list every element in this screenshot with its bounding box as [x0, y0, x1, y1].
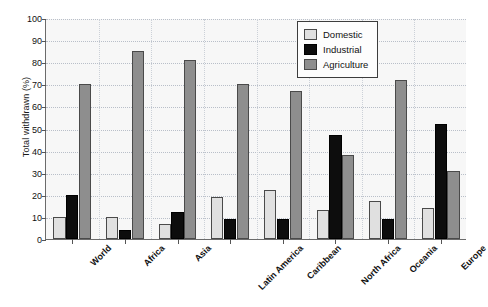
gridline-vertical — [151, 19, 152, 239]
y-axis-tick-label: 20 — [18, 191, 42, 200]
gridline-vertical — [414, 19, 415, 239]
gridline-vertical — [204, 19, 205, 239]
y-axis-tick-label: 50 — [18, 125, 42, 134]
bar-agriculture-europe — [447, 171, 459, 240]
bar-agriculture-world — [79, 84, 91, 239]
y-axis-tick-label: 80 — [18, 59, 42, 68]
legend-item-domestic: Domestic — [304, 27, 368, 42]
legend-item-industrial: Industrial — [304, 42, 368, 57]
bar-industrial-world — [66, 195, 78, 239]
x-axis-tick-label: Asia — [192, 243, 213, 264]
bar-domestic-africa — [106, 217, 118, 239]
bar-agriculture-latin-america — [237, 84, 249, 239]
y-axis-tick-mark — [42, 196, 46, 197]
y-axis-tick-label: 10 — [18, 213, 42, 222]
y-axis-tick-label: 90 — [18, 37, 42, 46]
bar-industrial-caribbean — [277, 219, 289, 239]
chart-legend: DomesticIndustrialAgriculture — [297, 21, 378, 78]
bar-domestic-oceania — [369, 201, 381, 239]
x-axis-tick-label: Latin America — [257, 243, 306, 292]
y-axis-tick-label: 60 — [18, 103, 42, 112]
legend-item-label: Industrial — [323, 45, 362, 55]
y-axis-tick-mark — [42, 85, 46, 86]
x-axis-tick-label: Caribbean — [305, 243, 343, 281]
legend-swatch-industrial-icon — [304, 44, 317, 55]
y-axis-tick-label: 70 — [18, 81, 42, 90]
bar-agriculture-caribbean — [290, 91, 302, 239]
bar-domestic-north-africa — [317, 210, 329, 239]
bar-industrial-latin-america — [224, 219, 236, 239]
y-axis-tick-mark — [42, 41, 46, 42]
y-axis-tick-label: 30 — [18, 169, 42, 178]
y-axis-tick-labels: 0102030405060708090100 — [18, 14, 42, 240]
y-axis-tick-mark — [42, 240, 46, 241]
legend-item-label: Agriculture — [323, 60, 368, 70]
y-axis-tick-mark — [42, 174, 46, 175]
bar-industrial-north-africa — [329, 135, 341, 239]
plot-area — [45, 19, 466, 240]
y-axis-tick-mark — [42, 218, 46, 219]
bar-domestic-caribbean — [264, 190, 276, 239]
x-axis-tick-label: Africa — [141, 243, 166, 268]
bar-domestic-europe — [422, 208, 434, 239]
bar-industrial-oceania — [382, 219, 394, 239]
bar-agriculture-africa — [132, 51, 144, 239]
gridline-vertical — [99, 19, 100, 239]
y-axis-tick-mark — [42, 19, 46, 20]
bar-industrial-africa — [119, 230, 131, 239]
bar-domestic-latin-america — [211, 197, 223, 239]
gridline-vertical — [257, 19, 258, 239]
y-axis-tick-mark — [42, 152, 46, 153]
y-axis-tick-mark — [42, 130, 46, 131]
bar-domestic-asia — [159, 224, 171, 239]
bar-agriculture-oceania — [395, 80, 407, 239]
y-axis-tick-label: 0 — [18, 236, 42, 245]
x-axis-tick-label: Oceania — [407, 243, 439, 275]
legend-item-agriculture: Agriculture — [304, 57, 368, 72]
x-axis-tick-label: North Africa — [360, 243, 404, 287]
bar-industrial-asia — [171, 212, 183, 239]
x-axis-tick-label: World — [89, 243, 114, 268]
bar-agriculture-asia — [184, 60, 196, 239]
bar-industrial-europe — [435, 124, 447, 239]
x-axis-tick-label: Europe — [459, 243, 488, 272]
y-axis-tick-label: 40 — [18, 147, 42, 156]
bar-domestic-world — [53, 217, 65, 239]
x-axis-tick-labels: WorldAfricaAsiaLatin AmericaCaribbeanNor… — [45, 243, 466, 307]
bar-agriculture-north-africa — [342, 155, 354, 239]
y-axis-tick-label: 100 — [18, 15, 42, 24]
legend-swatch-agriculture-icon — [304, 59, 317, 70]
legend-item-label: Domestic — [323, 30, 363, 40]
legend-swatch-domestic-icon — [304, 29, 317, 40]
y-axis-tick-mark — [42, 63, 46, 64]
y-axis-tick-mark — [42, 107, 46, 108]
plot-inner — [46, 19, 466, 239]
